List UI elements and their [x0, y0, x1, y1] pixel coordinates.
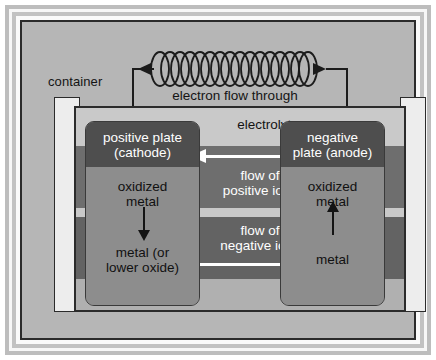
positive-plate-reactant: oxidized metal [86, 179, 199, 209]
negative-plate-reactant-line1: oxidized [281, 179, 384, 194]
positive-plate-header-text: positive plate (cathode) [86, 130, 199, 160]
positive-plate-header-line1: positive plate [86, 130, 199, 145]
positive-plate-product-line1: metal (or [86, 245, 199, 260]
negative-plate-product-line1: metal [281, 252, 384, 267]
negative-plate-reaction-arrow-shaft [332, 209, 334, 235]
negative-plate-header-text: negative plate (anode) [281, 130, 384, 160]
positive-plate-product-line2: lower oxide) [86, 260, 199, 275]
positive-plate-cathode: positive plate (cathode) oxidized metal … [85, 121, 200, 306]
negative-plate-anode: negative plate (anode) oxidized metal me… [280, 121, 385, 306]
positive-plate-header-line2: (cathode) [86, 145, 199, 160]
diagram-canvas: container [20, 20, 416, 340]
negative-plate-header-line2: plate (anode) [281, 145, 384, 160]
wire-right-horizontal [326, 68, 348, 70]
negative-plate-header-line1: negative [281, 130, 384, 145]
positive-plate-reactant-line1: oxidized [86, 179, 199, 194]
positive-plate-product: metal (or lower oxide) [86, 245, 199, 275]
diagram-page: container [0, 0, 436, 360]
electron-flow-caption-line1: electron flow through [130, 88, 340, 103]
resistor-coil-icon [150, 50, 318, 88]
positive-plate-header: positive plate (cathode) [86, 122, 199, 167]
negative-plate-product: metal [281, 252, 384, 267]
positive-plate-body: oxidized metal metal (or lower oxide) [86, 167, 199, 305]
negative-plate-header: negative plate (anode) [281, 122, 384, 167]
container-label: container [48, 74, 102, 89]
negative-plate-body: oxidized metal metal [281, 167, 384, 305]
negative-plate-reaction-arrow-up-icon [327, 201, 339, 212]
positive-plate-reaction-arrow-down-icon [138, 230, 150, 241]
